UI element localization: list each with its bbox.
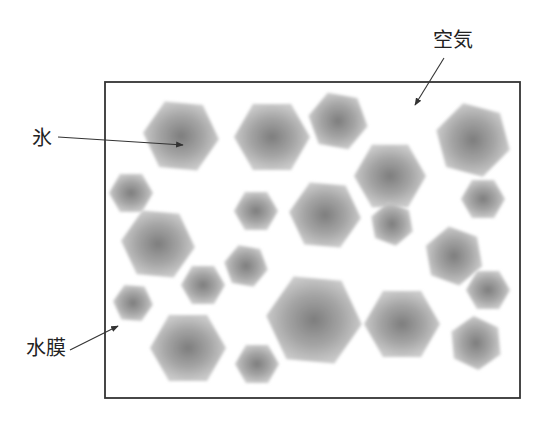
label-water-film: 水膜 xyxy=(26,338,66,358)
ice-crystal xyxy=(224,245,267,286)
ice-crystal xyxy=(436,103,509,176)
ice-crystal xyxy=(371,202,412,245)
ice-crystal xyxy=(234,192,278,230)
ice-crystal xyxy=(150,315,226,381)
label-ice: 氷 xyxy=(32,128,52,148)
label-air: 空気 xyxy=(433,30,473,50)
ice-crystal xyxy=(143,102,219,171)
ice-crystals-group xyxy=(109,93,510,383)
ice-crystal xyxy=(109,174,153,212)
diagram-canvas xyxy=(0,0,543,421)
ice-crystal xyxy=(354,145,426,207)
ice-crystal xyxy=(266,277,362,364)
ice-water-film-diagram: 氷 空気 水膜 xyxy=(0,0,543,421)
ice-crystal xyxy=(364,291,440,357)
ice-crystal xyxy=(113,285,153,321)
ice-crystal xyxy=(452,316,501,370)
ice-crystal xyxy=(181,266,225,304)
ice-crystal xyxy=(234,104,310,170)
ice-crystal xyxy=(121,211,195,278)
ice-crystal xyxy=(466,271,510,309)
arrow-water-film xyxy=(70,326,118,350)
ice-crystal xyxy=(289,182,361,247)
ice-crystal xyxy=(309,93,368,149)
ice-crystal xyxy=(235,345,279,383)
ice-crystal xyxy=(461,180,505,218)
